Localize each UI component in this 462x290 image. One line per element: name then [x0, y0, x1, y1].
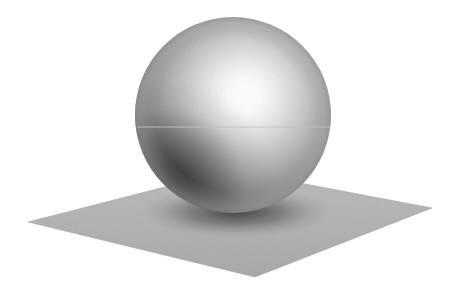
scene-canvas [0, 0, 462, 290]
sphere [135, 17, 331, 213]
render-figure: Raytraced sphere resting on a ground pla… [0, 0, 462, 290]
specular-highlight [215, 65, 275, 125]
